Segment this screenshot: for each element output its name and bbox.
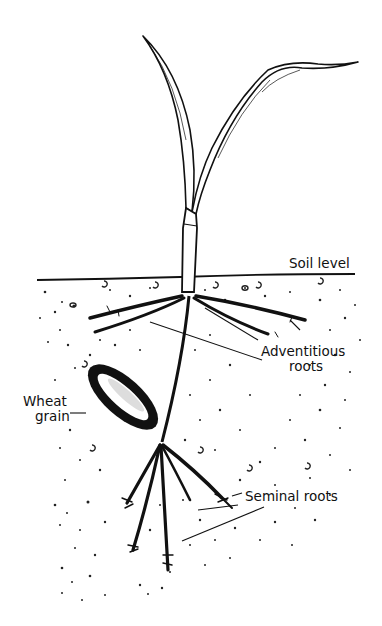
label-wheat-grain-line2: grain [35,409,70,424]
adventitious-roots [90,296,305,337]
right-leaf [192,62,358,214]
label-soil-level: Soil level [289,256,350,271]
figure-caption-cutoff [45,617,335,626]
leaves [143,36,358,214]
soil-texture [39,287,361,601]
wheat-grain [78,353,169,440]
label-adventitious-roots-line1: Adventitious [261,344,345,359]
soil-level-line [37,274,355,280]
label-wheat-grain-line1: Wheat [23,394,67,409]
wheat-seedling-diagram [0,0,382,626]
stem [182,208,197,292]
label-adventitious-roots-line2: roots [289,359,323,374]
subcrown-internode [162,296,189,442]
left-leaf [143,36,194,212]
label-seminal-roots: Seminal roots [245,489,338,504]
